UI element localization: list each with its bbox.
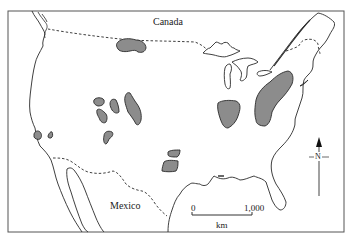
- st-lawrence-river: [274, 20, 310, 66]
- lake-ontario-outline: [257, 71, 272, 77]
- great-basin-region-1: [94, 98, 104, 106]
- north-arrow: [309, 137, 329, 196]
- southeast-coastline: [168, 128, 294, 232]
- southern-plains-region-2: [162, 160, 178, 171]
- map-frame: [8, 11, 344, 232]
- great-basin-region-4: [104, 131, 113, 144]
- great-lakes-outline: [203, 42, 240, 57]
- appalachian-region: [255, 71, 293, 126]
- scale-unit-label: km: [216, 220, 228, 230]
- map-canvas: [0, 0, 353, 237]
- midwest-region: [218, 100, 240, 128]
- canada-label: Canada: [153, 16, 183, 27]
- northeast-coastline: [270, 13, 335, 128]
- shaded-regions: [34, 39, 293, 172]
- great-basin-region-2: [110, 99, 119, 113]
- southern-plains-region-1: [168, 150, 180, 157]
- scale-bar: [192, 212, 252, 215]
- great-basin-region-3: [97, 109, 107, 123]
- north-label: N: [314, 152, 322, 161]
- puget-sound-outline: [38, 12, 47, 38]
- scale-end-label: 1,000: [244, 203, 264, 213]
- lake-michigan-outline: [224, 64, 231, 89]
- scale-start-label: 0: [191, 203, 196, 213]
- mexico-label: Mexico: [110, 200, 141, 211]
- southern-california-region-2: [48, 132, 53, 138]
- rocky-mountain-region: [125, 93, 142, 125]
- southern-california-region-1: [34, 131, 42, 139]
- west-coastline: [30, 11, 82, 232]
- lake-huron-erie-outline: [232, 58, 258, 81]
- baja-california-outline: [67, 168, 104, 232]
